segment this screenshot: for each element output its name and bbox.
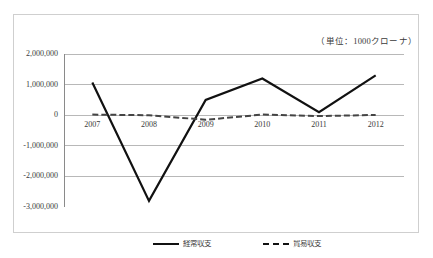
- x-tick-label: 2011: [311, 121, 327, 129]
- x-tick-label: 2009: [198, 121, 214, 129]
- y-tick-label: -1,000,000: [23, 142, 58, 150]
- chart-screenshot: （単位：1000クローナ） 2,000,0001,000,0000-1,000,…: [0, 0, 433, 258]
- x-tick-label: 2007: [84, 121, 100, 129]
- y-tick-label: -3,000,000: [23, 203, 58, 211]
- y-tick-label: 2,000,000: [26, 50, 58, 58]
- legend-entry: 経常収支: [153, 240, 211, 248]
- legend-label: 貿易収支: [293, 240, 321, 248]
- legend-swatch-solid: [153, 243, 179, 245]
- legend-entry: 貿易収支: [263, 240, 321, 248]
- x-tick-label: 2008: [141, 121, 157, 129]
- unit-caption: （単位：1000クローナ）: [316, 34, 417, 46]
- x-tick-label: 2012: [368, 121, 384, 129]
- x-axis-tick-labels: 200720082009201020112012: [64, 121, 404, 135]
- y-tick-label: -2,000,000: [23, 172, 58, 180]
- chart-legend: 経常収支貿易収支: [13, 240, 419, 258]
- legend-swatch-dashed: [263, 243, 289, 245]
- y-tick-label: 0: [54, 111, 58, 119]
- series-line-0: [92, 75, 375, 200]
- x-tick-label: 2010: [254, 121, 270, 129]
- y-axis-tick-labels: 2,000,0001,000,0000-1,000,000-2,000,000-…: [0, 0, 64, 258]
- legend-label: 経常収支: [183, 240, 211, 248]
- y-tick-label: 1,000,000: [26, 81, 58, 89]
